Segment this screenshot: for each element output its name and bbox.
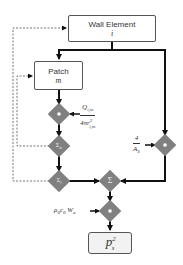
patch-label: Patch xyxy=(48,67,68,76)
output-box: p2s xyxy=(88,232,132,254)
patch-box: Patch m xyxy=(34,61,83,90)
right-to-sum-line xyxy=(121,155,165,181)
product-diamond-1 xyxy=(48,103,71,126)
wall-element-var: i xyxy=(111,29,113,38)
wall-element-box: Wall Element i xyxy=(68,15,156,42)
output-label: p2s xyxy=(106,234,115,252)
wall-element-label: Wall Element xyxy=(89,20,136,29)
patch-var: m xyxy=(56,76,62,85)
rho-c-w-label: ρ0c0 Wa xyxy=(54,206,76,217)
product-diamond-2 xyxy=(99,200,122,223)
wall-to-right-line xyxy=(112,50,165,135)
sum-label: Σ xyxy=(100,176,120,185)
wall-to-patch-line xyxy=(59,42,112,59)
q-over-r-label: Qi,m 4πr2i,m xyxy=(80,103,95,131)
four-over-as-label: 4 AS xyxy=(133,134,140,156)
sum-i-label: Σi xyxy=(49,177,69,185)
product-diamond-right xyxy=(154,134,177,157)
sum-m-label: Σm xyxy=(49,142,69,150)
